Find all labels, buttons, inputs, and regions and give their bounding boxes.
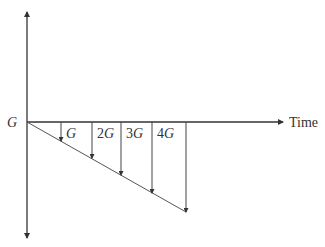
- label-2g: 2G: [97, 126, 114, 141]
- label-g: G: [66, 126, 76, 141]
- label-2g-var: G: [104, 126, 114, 141]
- label-3g-coef: 3: [126, 126, 133, 141]
- label-3g: 3G: [126, 126, 143, 141]
- time-axis-label: Time: [289, 115, 318, 130]
- label-3g-var: G: [133, 126, 143, 141]
- label-4g: 4G: [157, 126, 174, 141]
- origin-label: G: [7, 115, 17, 130]
- label-4g-var: G: [164, 126, 174, 141]
- label-4g-coef: 4: [157, 126, 164, 141]
- label-2g-coef: 2: [97, 126, 104, 141]
- diagram-canvas: G Time G 2G 3G 4G: [0, 0, 325, 247]
